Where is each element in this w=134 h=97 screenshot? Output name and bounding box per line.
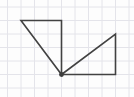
shared-vertex-dot [59, 72, 64, 77]
geometry-diagram [0, 0, 134, 97]
diagram-canvas [0, 0, 134, 97]
